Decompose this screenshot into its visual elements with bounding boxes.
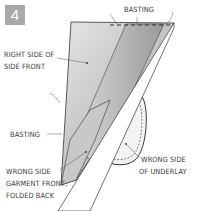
label-underlay-line2: OF UNDERLAY xyxy=(139,167,187,176)
label-right-side-line2: SIDE FRONT xyxy=(4,62,45,71)
label-underlay-line1: WRONG SIDE xyxy=(141,155,186,164)
label-basting-top: BASTING xyxy=(124,5,154,14)
label-basting-left: BASTING xyxy=(10,130,40,139)
step-number-badge: 4 xyxy=(5,5,25,25)
label-wrong-side-front-line3: FOLDED BACK xyxy=(6,191,54,200)
label-right-side-line1: RIGHT SIDE OF xyxy=(4,50,55,59)
label-wrong-side-front-line2: GARMENT FRONT, xyxy=(6,179,67,188)
label-wrong-side-front-line1: WRONG SIDE xyxy=(6,167,51,176)
